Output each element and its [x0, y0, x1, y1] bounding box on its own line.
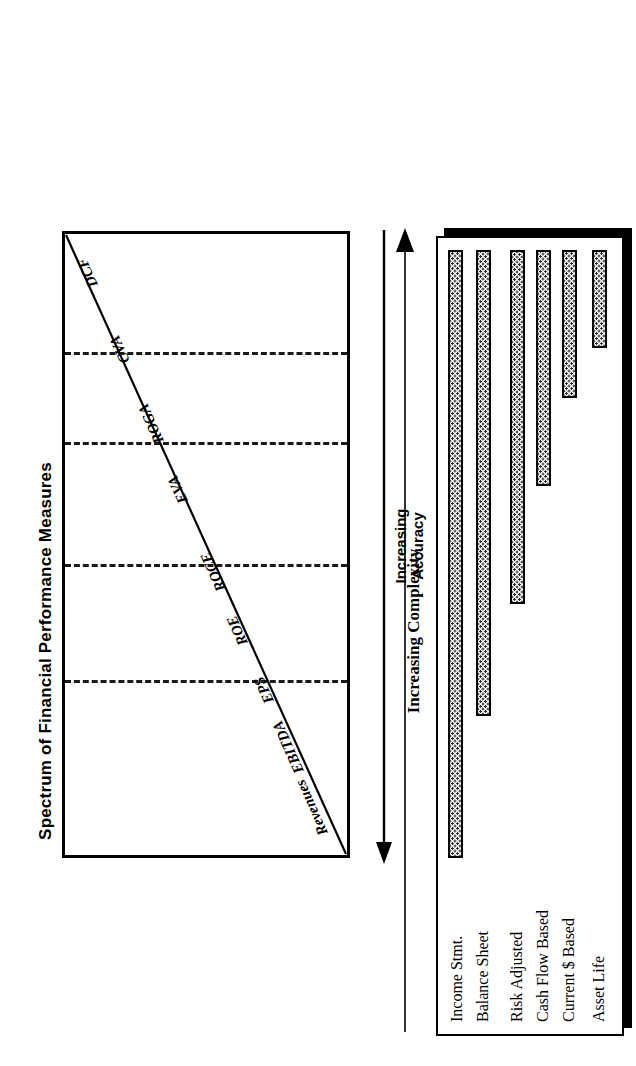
adjustment-label-asset-life: Asset Life [590, 956, 608, 1022]
adjustment-bar-asset-life [592, 250, 607, 348]
divider-roe [65, 680, 347, 683]
adjustment-label-risk-adjusted: Risk Adjusted [508, 932, 526, 1022]
adjustment-bar-balance-sheet [476, 250, 491, 716]
adjustment-bar-risk-adjusted [510, 250, 525, 604]
adjustment-label-income-stmt: Income Stmt. [448, 936, 466, 1022]
adjustment-bar-cash-flow-based [536, 250, 551, 486]
adjustments-panel: Income Stmt. Balance Sheet Risk Adjusted… [436, 236, 624, 1036]
increasing-complexity-label: Increasing Complexity [404, 226, 424, 1036]
page-title: Spectrum of Financial Performance Measur… [36, 236, 56, 1066]
adjustment-label-balance-sheet: Balance Sheet [474, 931, 492, 1022]
diagram-canvas: Spectrum of Financial Performance Measur… [0, 0, 636, 1066]
adjustment-bar-current-dollar-based [562, 250, 577, 398]
adjustment-label-cash-flow-based: Cash Flow Based [534, 910, 552, 1022]
spectrum-panel [62, 231, 350, 858]
divider-eva [65, 442, 347, 445]
adjustment-bar-income-stmt [448, 250, 463, 858]
adjustment-label-current-dollar-based: Current $ Based [560, 918, 578, 1022]
divider-roga [65, 352, 347, 355]
